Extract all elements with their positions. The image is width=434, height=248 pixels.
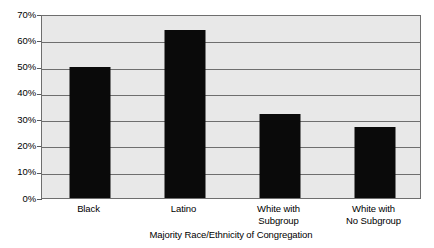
y-tick-label: 10% <box>0 167 36 177</box>
x-category-label-line: Latino <box>136 203 231 215</box>
x-category-label: White withSubgroup <box>231 203 326 226</box>
bar <box>69 67 110 198</box>
y-tick-label: 70% <box>0 10 36 20</box>
y-tick-mark <box>37 199 42 200</box>
x-category-label-line: Black <box>41 203 136 215</box>
x-category-label-line: Subgroup <box>231 215 326 227</box>
bar-slot <box>137 16 232 198</box>
x-axis-category-labels: BlackLatinoWhite withSubgroupWhite withN… <box>41 203 421 231</box>
plot-area <box>41 15 421 199</box>
bar-slot <box>327 16 422 198</box>
y-tick-label: 60% <box>0 36 36 46</box>
bar-chart-figure: 70%60%50%40%30%20%10%0% BlackLatinoWhite… <box>0 0 434 248</box>
x-category-label: Latino <box>136 203 231 215</box>
x-category-label: White withNo Subgroup <box>326 203 421 226</box>
bar <box>259 114 300 198</box>
bar <box>164 30 205 198</box>
y-tick-label: 40% <box>0 88 36 98</box>
bar <box>354 127 395 198</box>
y-tick-label: 30% <box>0 115 36 125</box>
x-category-label-line: White with <box>326 203 421 215</box>
bar-slot <box>232 16 327 198</box>
x-category-label: Black <box>41 203 136 215</box>
x-category-label-line: White with <box>231 203 326 215</box>
bars-layer <box>42 16 420 198</box>
y-axis: 70%60%50%40%30%20%10%0% <box>0 0 36 248</box>
x-axis-title: Majority Race/Ethnicity of Congregation <box>41 229 421 240</box>
y-tick-label: 50% <box>0 62 36 72</box>
x-category-label-line: No Subgroup <box>326 215 421 227</box>
bar-slot <box>42 16 137 198</box>
y-tick-label: 0% <box>0 194 36 204</box>
y-tick-label: 20% <box>0 141 36 151</box>
